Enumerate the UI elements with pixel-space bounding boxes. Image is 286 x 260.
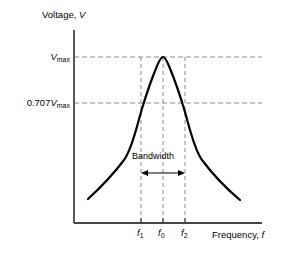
bandwidth-arrow-head-left xyxy=(141,170,148,176)
x-axis-title: Frequency, f xyxy=(212,230,264,240)
y-label-half-power: 0.707Vmax xyxy=(6,98,70,108)
x-label-f2-sub: 2 xyxy=(184,232,188,239)
y-label-vmax: Vmax xyxy=(38,52,70,62)
y-label-vmax-symbol: V xyxy=(50,51,56,62)
x-label-f2: f2 xyxy=(181,228,188,238)
x-axis-title-symbol: f xyxy=(261,229,264,240)
y-label-half-power-prefix: 0.707 xyxy=(27,97,51,108)
resonance-curve-path xyxy=(88,57,240,200)
y-axis-title-symbol: V xyxy=(79,9,85,20)
y-axis-title: Voltage, V xyxy=(42,10,85,20)
x-axis-title-text: Frequency, xyxy=(212,229,261,240)
resonance-plot-svg xyxy=(0,0,286,260)
y-label-vmax-sub: max xyxy=(57,56,70,63)
x-label-f1-sub: 1 xyxy=(140,232,144,239)
y-axis-title-text: Voltage, xyxy=(42,9,79,20)
y-label-half-power-symbol: V xyxy=(50,97,56,108)
y-label-half-power-sub: max xyxy=(57,102,70,109)
x-label-f1: f1 xyxy=(137,228,144,238)
resonance-curve-figure: Voltage, V Frequency, f Vmax 0.707Vmax B… xyxy=(0,0,286,260)
bandwidth-label: Bandwidth xyxy=(132,152,174,161)
bandwidth-arrow-head-right xyxy=(178,170,185,176)
x-label-f0-sub: 0 xyxy=(161,232,165,239)
x-label-f0: f0 xyxy=(158,228,165,238)
